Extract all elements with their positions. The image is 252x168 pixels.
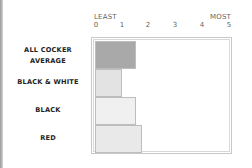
x-tick: 0 <box>94 21 98 29</box>
x-tick: 4 <box>200 21 204 29</box>
category-label-line: ALL COCKER <box>3 45 93 56</box>
bar-all-cocker-average <box>95 41 136 69</box>
axis-label-least: LEAST <box>94 13 117 21</box>
x-tick: 5 <box>227 21 231 29</box>
axis-label-most: MOST <box>210 13 231 21</box>
category-label-all-cocker-average: ALL COCKER AVERAGE <box>3 45 93 66</box>
category-label-line: AVERAGE <box>3 56 93 67</box>
bar-black <box>95 97 136 125</box>
bar-black-white <box>95 69 122 97</box>
x-tick: 3 <box>173 21 177 29</box>
category-label-red: RED <box>3 133 93 144</box>
x-tick: 2 <box>146 21 150 29</box>
category-label-black-white: BLACK & WHITE <box>3 77 93 88</box>
x-tick: 1 <box>120 21 124 29</box>
bar-red <box>95 125 142 153</box>
category-label-black: BLACK <box>3 105 93 116</box>
